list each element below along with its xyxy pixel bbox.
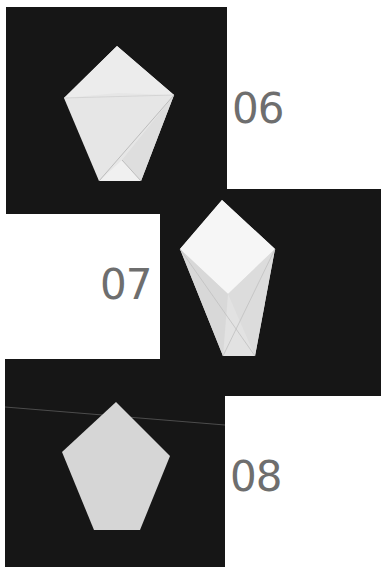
step-number-08: 08 [230, 456, 281, 498]
step-number-07: 07 [100, 264, 151, 306]
pentagon-fold-step-06-icon [6, 7, 227, 214]
step-number-06: 06 [232, 88, 283, 130]
pentagon-fold-step-08-icon [5, 359, 225, 567]
connector-strip [6, 189, 160, 214]
step-08-photo-panel [5, 359, 225, 567]
step-06-photo-panel [6, 7, 227, 214]
